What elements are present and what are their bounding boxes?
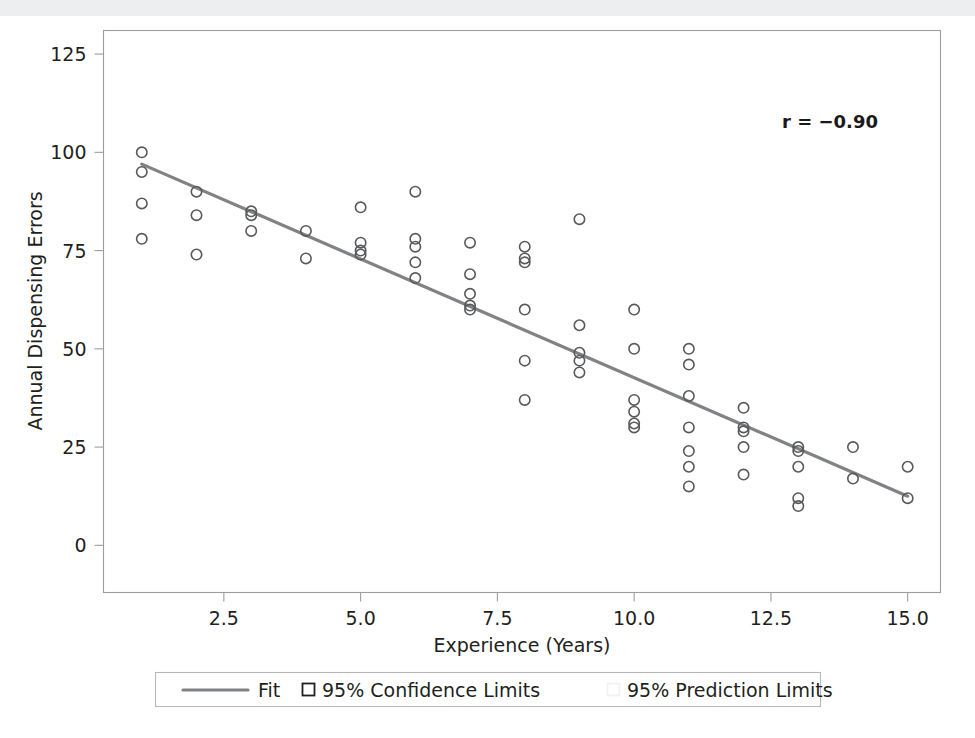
scatter-plot-figure: 0255075100125 2.55.07.510.012.515.0 Annu… — [0, 0, 975, 738]
data-point-marker — [301, 253, 311, 263]
data-point-marker — [793, 501, 803, 511]
data-point-marker — [629, 395, 639, 405]
legend-confidence-label: 95% Confidence Limits — [322, 679, 540, 701]
data-point-marker — [191, 210, 201, 220]
data-point-marker — [684, 481, 694, 491]
x-tick-label: 7.5 — [482, 607, 512, 629]
data-point-marker — [465, 269, 475, 279]
y-tick-label: 50 — [62, 338, 86, 360]
data-point-marker — [793, 462, 803, 472]
x-tick-label: 10.0 — [613, 607, 655, 629]
data-point-marker — [465, 289, 475, 299]
y-tick-label: 100 — [50, 141, 86, 163]
data-point-marker — [684, 462, 694, 472]
data-point-marker — [520, 355, 530, 365]
data-point-marker — [410, 241, 420, 251]
data-point-marker — [465, 238, 475, 248]
data-point-marker — [520, 395, 530, 405]
legend-prediction-square-swatch — [608, 684, 620, 696]
data-point-marker — [574, 367, 584, 377]
data-point-marker — [574, 355, 584, 365]
data-point-marker — [629, 304, 639, 314]
data-point-marker — [738, 442, 748, 452]
data-point-marker — [137, 167, 147, 177]
data-point-marker — [738, 403, 748, 413]
data-point-marker — [520, 304, 530, 314]
y-axis-title: Annual Dispensing Errors — [24, 191, 46, 430]
y-tick-label: 75 — [62, 240, 86, 262]
data-point-marker — [137, 147, 147, 157]
data-point-marker — [355, 202, 365, 212]
legend-confidence-square-swatch — [303, 684, 315, 696]
data-point-marker — [738, 469, 748, 479]
data-point-marker — [574, 320, 584, 330]
data-point-marker — [137, 198, 147, 208]
x-axis-title: Experience (Years) — [434, 634, 611, 656]
data-point-marker — [848, 473, 858, 483]
data-point-marker — [684, 446, 694, 456]
x-tick-label: 15.0 — [887, 607, 929, 629]
data-point-marker — [684, 359, 694, 369]
data-point-marker — [684, 422, 694, 432]
correlation-annotation: r = −0.90 — [782, 111, 878, 132]
data-point-marker — [574, 214, 584, 224]
data-point-marker — [137, 234, 147, 244]
data-point-marker — [629, 407, 639, 417]
x-axis: 2.55.07.510.012.515.0 — [209, 593, 929, 629]
legend: Fit 95% Confidence Limits 95% Prediction… — [156, 673, 833, 707]
legend-fit-label: Fit — [258, 679, 280, 701]
x-tick-label: 5.0 — [346, 607, 376, 629]
y-tick-label: 125 — [50, 43, 86, 65]
y-axis: 0255075100125 — [50, 43, 103, 556]
data-point-marker — [410, 186, 420, 196]
data-point-marker — [520, 241, 530, 251]
data-point-marker — [410, 257, 420, 267]
data-point-marker — [629, 344, 639, 354]
data-point-marker — [848, 442, 858, 452]
data-point-marker — [246, 226, 256, 236]
data-point-marker — [684, 344, 694, 354]
data-point-marker — [902, 462, 912, 472]
y-tick-label: 25 — [62, 436, 86, 458]
data-point-marker — [191, 249, 201, 259]
x-tick-label: 12.5 — [750, 607, 792, 629]
x-tick-label: 2.5 — [209, 607, 239, 629]
y-tick-label: 0 — [74, 534, 86, 556]
legend-prediction-label: 95% Prediction Limits — [627, 679, 833, 701]
